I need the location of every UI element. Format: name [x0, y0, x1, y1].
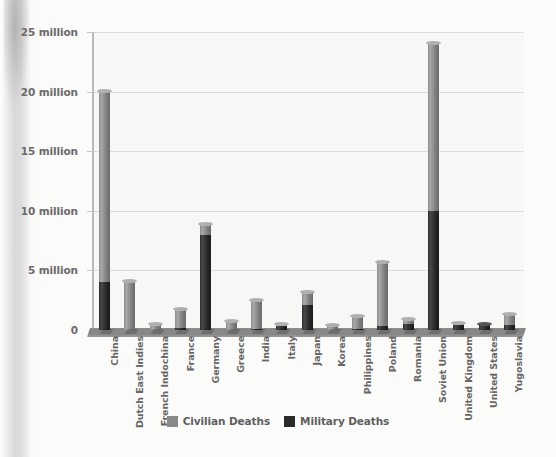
x-axis-category-label: India — [260, 336, 271, 362]
bar-stack[interactable] — [99, 92, 110, 330]
x-axis-category-label: Yugoslavia — [513, 336, 524, 392]
bar-stack[interactable] — [453, 324, 464, 330]
x-axis-category-label: China — [109, 336, 120, 366]
chart-legend: Civilian DeathsMilitary Deaths — [0, 415, 556, 427]
x-axis-category-label: Japan — [311, 336, 322, 365]
legend-swatch — [167, 416, 178, 427]
bar-cap — [502, 312, 517, 316]
bar-stack[interactable] — [327, 326, 338, 330]
bar-segment-civilian[interactable] — [302, 293, 313, 305]
bar-cap — [401, 317, 416, 321]
bar-stack[interactable] — [251, 301, 262, 330]
bar-segment-civilian[interactable] — [99, 92, 110, 283]
bar-stack[interactable] — [302, 293, 313, 330]
x-axis-category-label: Soviet Union — [437, 336, 448, 403]
legend-label: Civilian Deaths — [183, 415, 270, 427]
x-axis-category-label: Greece — [235, 336, 246, 373]
bar-shadow — [479, 329, 493, 334]
bar-stack[interactable] — [226, 322, 237, 330]
bar-segment-civilian[interactable] — [200, 225, 211, 235]
bar-segment-civilian[interactable] — [352, 317, 363, 329]
legend-label: Military Deaths — [300, 415, 389, 427]
bar-cap — [300, 290, 315, 294]
x-axis-category-label: Romania — [412, 336, 423, 382]
bar-cap — [224, 319, 239, 323]
bar-cap — [173, 307, 188, 311]
bar-stack[interactable] — [276, 325, 287, 330]
x-axis-category-label: Korea — [336, 336, 347, 367]
chart-page: 05 million10 million15 million20 million… — [0, 0, 556, 457]
bar-cap — [198, 222, 213, 226]
bar-segment-civilian[interactable] — [377, 263, 388, 326]
legend-item[interactable]: Civilian Deaths — [167, 415, 270, 427]
y-axis-tick-label: 0 — [71, 324, 78, 336]
x-axis-category-label: United Kingdom — [463, 336, 474, 421]
stacked-bar-chart: 05 million10 million15 million20 million… — [0, 0, 556, 457]
bar-cap — [477, 322, 492, 326]
bar-stack[interactable] — [200, 225, 211, 330]
bar-stack[interactable] — [479, 325, 490, 330]
bar-shadow — [226, 329, 240, 334]
bar-cap — [375, 260, 390, 264]
bar-stack[interactable] — [428, 44, 439, 330]
bar-segment-civilian[interactable] — [504, 315, 515, 325]
bar-stack[interactable] — [352, 317, 363, 330]
x-axis-category-label: Philippines — [362, 336, 373, 394]
bar-segment-military[interactable] — [302, 305, 313, 330]
bar-cap — [148, 322, 163, 326]
legend-item[interactable]: Military Deaths — [284, 415, 389, 427]
y-axis-tick-label: 25 million — [21, 26, 78, 38]
x-axis-category-label: Italy — [286, 336, 297, 359]
y-axis-tick-label: 10 million — [21, 205, 78, 217]
x-axis-category-label: Germany — [210, 336, 221, 384]
bar-stack[interactable] — [175, 310, 186, 330]
bar-segment-military[interactable] — [428, 211, 439, 330]
bar-cap — [350, 314, 365, 318]
bar-segment-civilian[interactable] — [175, 310, 186, 328]
bar-stack[interactable] — [150, 325, 161, 330]
bar-cap — [325, 323, 340, 327]
bar-cap — [274, 322, 289, 326]
bar-cap — [249, 298, 264, 302]
bar-segment-civilian[interactable] — [428, 44, 439, 211]
bar-stack[interactable] — [504, 315, 515, 330]
bar-stack[interactable] — [403, 320, 414, 330]
bar-cap — [97, 89, 112, 93]
y-axis-tick-label: 5 million — [28, 264, 78, 276]
legend-swatch — [284, 416, 295, 427]
bar-segment-civilian[interactable] — [124, 282, 135, 330]
y-axis-tick-label: 20 million — [21, 86, 78, 98]
bar-segment-military[interactable] — [200, 235, 211, 330]
x-axis-category-label: Poland — [387, 336, 398, 372]
bar-group — [92, 32, 522, 330]
bar-shadow — [302, 329, 316, 334]
bar-stack[interactable] — [124, 282, 135, 330]
y-axis-labels: 05 million10 million15 million20 million… — [0, 32, 86, 330]
x-axis-category-label: United States — [488, 336, 499, 408]
x-axis-category-label: French Indochina — [159, 336, 170, 426]
bar-cap — [122, 279, 137, 283]
bar-segment-civilian[interactable] — [251, 301, 262, 328]
bar-cap — [426, 41, 441, 45]
bar-stack[interactable] — [377, 263, 388, 330]
bar-segment-military[interactable] — [99, 282, 110, 330]
y-axis-tick-label: 15 million — [21, 145, 78, 157]
x-axis-category-label: France — [185, 336, 196, 371]
